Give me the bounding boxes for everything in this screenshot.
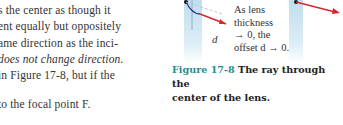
text-line: ame direction as the inci- bbox=[0, 35, 168, 51]
figure-number: Figure 17-8 bbox=[172, 64, 235, 75]
figure-annotation: As lens thickness → 0, the offset d → 0. bbox=[234, 4, 289, 54]
text-line-italic: does not change direction. bbox=[0, 51, 168, 67]
text-line: s the center as though it bbox=[0, 2, 168, 18]
body-paragraph: s the center as though it ent equally bu… bbox=[0, 2, 168, 113]
figure-17-8: d As lens thickness → 0, the offset d → … bbox=[170, 0, 343, 70]
figure-caption: Figure 17-8 The ray through the center o… bbox=[172, 63, 343, 105]
text-line: to the focal point F. bbox=[0, 96, 168, 112]
text-line: ent equally but oppositely bbox=[0, 18, 168, 34]
offset-label: d bbox=[212, 33, 218, 45]
text-line: in Figure 17-8, but if the bbox=[0, 67, 168, 83]
